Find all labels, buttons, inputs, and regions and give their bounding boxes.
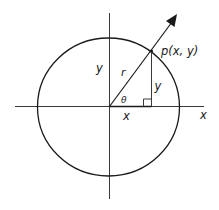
angle-label: θ — [121, 95, 127, 105]
radius-vector — [110, 22, 173, 107]
y-axis-label: y — [95, 61, 103, 75]
y-component-label: y — [154, 79, 162, 93]
x-axis-label: x — [199, 108, 207, 122]
arrowhead-icon — [166, 14, 177, 27]
point-label: p(x, y) — [160, 44, 198, 58]
x-component-label: x — [122, 109, 130, 123]
right-angle-marker — [144, 99, 152, 107]
point-p — [150, 49, 153, 52]
polar-coordinate-diagram: p(x, y) y r y θ x x — [0, 0, 219, 210]
radius-label: r — [121, 66, 127, 79]
